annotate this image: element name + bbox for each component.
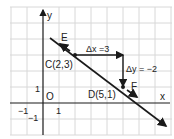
- origin-label: O: [46, 91, 54, 102]
- x-axis-label: x: [160, 91, 165, 102]
- coordinate-diagram: y x O 1 −1 1 −1 E C(2,3) D(5,1) F Δx =3 …: [0, 0, 174, 139]
- point-f-label: F: [131, 81, 137, 92]
- delta-y-label: Δy = −2: [126, 64, 157, 74]
- point-d-label: D(5,1): [88, 89, 116, 100]
- diagram-canvas: y x O 1 −1 1 −1 E C(2,3) D(5,1) F Δx =3 …: [0, 0, 174, 139]
- point-c: [73, 53, 77, 57]
- y-axis-label: y: [47, 10, 52, 21]
- tick-x-neg: −1: [18, 106, 28, 116]
- point-e-label: E: [61, 32, 68, 43]
- point-d: [121, 85, 125, 89]
- tick-x-pos: 1: [56, 106, 61, 116]
- tick-y-pos: 1: [35, 84, 40, 94]
- delta-x-label: Δx =3: [86, 44, 109, 54]
- tick-y-neg: −1: [28, 113, 38, 123]
- point-c-label: C(2,3): [45, 59, 73, 70]
